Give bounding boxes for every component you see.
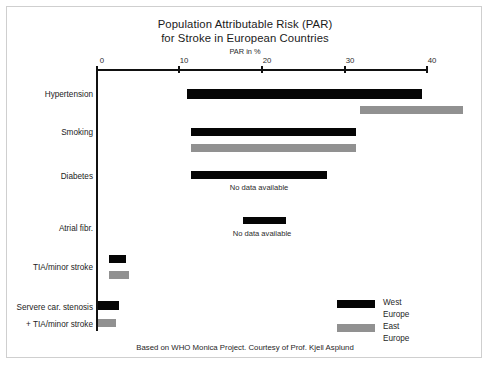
- bar-atrial-fibr-west: [243, 217, 286, 224]
- x-tick-label-40: 40: [420, 56, 444, 65]
- bar-diabetes-west: [191, 171, 327, 179]
- bar-smoking-west: [191, 128, 356, 136]
- chart-caption: Based on WHO Monica Project. Courtesy of…: [7, 343, 483, 352]
- x-tick-label-20: 20: [255, 56, 279, 65]
- x-axis-line: [96, 69, 427, 71]
- bar-stenosis-east: [98, 319, 116, 327]
- category-label-smoking: Smoking: [0, 128, 93, 138]
- plot-area: 0 10 20 30 40 Hypertension Smoking Diabe…: [7, 7, 483, 359]
- bar-tia-minor-stroke-west: [109, 255, 126, 263]
- x-tick-label-30: 30: [338, 56, 362, 65]
- category-label-hypertension: Hypertension: [0, 90, 93, 100]
- legend-label-west-europe: West Europe: [383, 297, 409, 321]
- note-diabetes-no-data: No data available: [167, 183, 351, 192]
- bar-hypertension-west: [187, 89, 422, 99]
- category-label-diabetes: Diabetes: [0, 172, 93, 182]
- category-label-atrial-fibr: Atrial fibr.: [0, 224, 93, 234]
- bar-tia-minor-stroke-east: [109, 271, 129, 279]
- bar-smoking-east: [191, 144, 356, 152]
- legend-swatch-west-europe: [337, 300, 375, 308]
- chart-frame: Population Attributable Risk (PAR) for S…: [6, 6, 482, 358]
- y-axis-line: [96, 69, 98, 331]
- bar-stenosis-west: [98, 301, 119, 310]
- legend-label-east-europe: East Europe: [383, 321, 409, 345]
- bar-hypertension-east: [360, 106, 463, 114]
- category-label-tia-minor-stroke: TIA/minor stroke: [0, 263, 93, 273]
- category-label-stenosis-line-2: + TIA/minor stroke: [0, 320, 93, 330]
- note-atrial-fibr-no-data: No data available: [170, 229, 354, 238]
- category-label-stenosis-line-1: Servere car. stenosis: [0, 303, 93, 313]
- legend-swatch-east-europe: [337, 324, 375, 332]
- x-tick-label-10: 10: [172, 56, 196, 65]
- x-tick-label-0: 0: [90, 56, 114, 65]
